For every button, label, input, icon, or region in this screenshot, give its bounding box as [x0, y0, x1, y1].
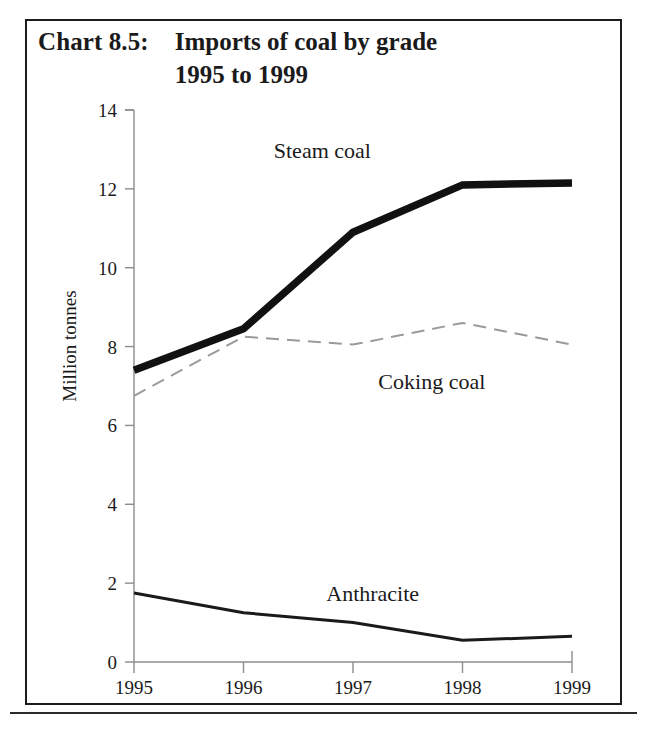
chart-plot-svg: 0246810121419951996199719981999Million t… [0, 0, 647, 730]
y-tick-label: 0 [108, 652, 118, 673]
series-label-coking-coal: Coking coal [378, 369, 485, 394]
y-tick-label: 8 [108, 337, 118, 358]
y-tick-label: 12 [98, 179, 117, 200]
y-tick-label: 10 [98, 258, 117, 279]
series-label-anthracite: Anthracite [326, 581, 419, 606]
x-tick-label: 1999 [553, 677, 591, 698]
series-line-steam-coal [134, 183, 572, 370]
y-tick-label: 4 [108, 494, 118, 515]
y-tick-label: 6 [108, 415, 118, 436]
page-bottom-rule [10, 712, 637, 714]
x-tick-label: 1998 [444, 677, 482, 698]
x-tick-label: 1995 [115, 677, 153, 698]
series-line-coking-coal [134, 323, 572, 396]
chart-figure: Chart 8.5: Imports of coal by grade 1995… [0, 0, 647, 730]
y-tick-label: 2 [108, 573, 118, 594]
series-label-steam-coal: Steam coal [274, 138, 371, 163]
y-tick-label: 14 [98, 100, 118, 121]
y-axis-title: Million tonnes [59, 290, 80, 401]
x-tick-label: 1996 [225, 677, 263, 698]
x-tick-label: 1997 [334, 677, 372, 698]
